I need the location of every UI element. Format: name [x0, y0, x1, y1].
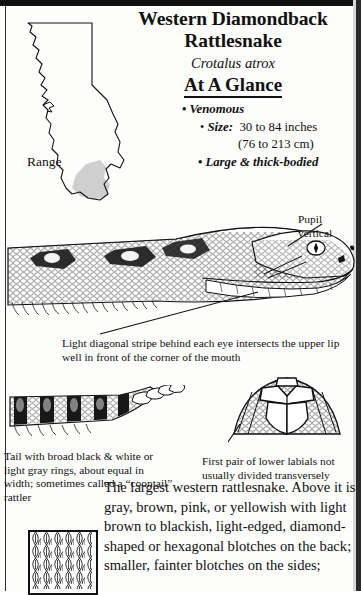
bullet-size-metric: (76 to 213 cm) — [126, 136, 354, 154]
scientific-name: Crotalus atrox — [112, 54, 354, 73]
range-shaded-area — [72, 160, 110, 200]
bullet-glyph-icon: • — [198, 155, 202, 169]
species-description: The largest western rattlesnake. Above i… — [104, 478, 356, 576]
page-title-line2: Rattlesnake — [112, 30, 354, 52]
bullet-glyph-icon: • — [200, 120, 204, 134]
range-map: Range — [14, 12, 126, 217]
header-block: Western Diamondback Rattlesnake Crotalus… — [112, 8, 354, 171]
bullet-venomous: • Venomous — [126, 101, 354, 119]
callout-pupil-line2: vertical — [298, 227, 332, 241]
page-title-line1: Western Diamondback — [112, 8, 354, 30]
bullet-build: • Large & thick-bodied — [126, 154, 354, 172]
nostril — [350, 246, 354, 251]
callout-pupil: Pupil vertical — [298, 213, 332, 240]
rattle — [132, 385, 185, 404]
bullet-glyph-icon: • — [182, 102, 186, 116]
bullet-venomous-label: Venomous — [189, 102, 244, 116]
range-map-label: Range — [27, 154, 62, 170]
stripe-leader-line — [92, 290, 262, 338]
bullet-build-label: Large & thick-bodied — [205, 155, 318, 169]
figure-snake-tail — [8, 385, 198, 445]
figure-keeled-scales — [28, 530, 98, 595]
callout-light-diagonal-stripe: Light diagonal stripe behind each eye in… — [62, 337, 352, 364]
california-outline — [28, 23, 124, 200]
bullet-size: • Size: 30 to 84 inches — [126, 119, 354, 137]
scan-edge-top — [0, 0, 361, 6]
bullet-size-label: Size: — [207, 120, 233, 134]
mental-scale — [276, 378, 298, 386]
section-heading-at-a-glance: At A Glance — [184, 74, 282, 98]
bullet-size-value: 30 to 84 inches — [239, 120, 317, 134]
at-a-glance-list: • Venomous • Size: 30 to 84 inches (76 t… — [112, 101, 354, 171]
callout-pupil-line1: Pupil — [298, 213, 332, 227]
species-description-text: The largest western rattlesnake. Above i… — [104, 478, 356, 576]
figure-chin-labials — [228, 372, 346, 444]
